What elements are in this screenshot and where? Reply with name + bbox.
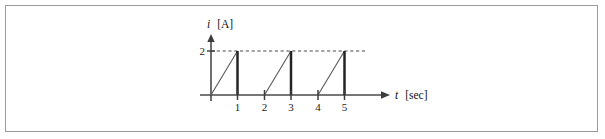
ramp-segment-2: [265, 51, 292, 95]
y-axis-unit: [A]: [217, 18, 233, 30]
x-tick-label-1: 1: [235, 101, 241, 113]
x-tick-label-2: 2: [262, 101, 268, 113]
y-axis-arrow-icon: [207, 34, 214, 42]
x-tick-label-3: 3: [288, 101, 294, 113]
y-tick-label-2: 2: [200, 45, 206, 57]
x-tick-label-4: 4: [315, 101, 321, 113]
x-tick-label-5: 5: [342, 101, 348, 113]
y-axis-title: i [A]: [207, 14, 233, 31]
x-axis-symbol: t: [395, 89, 399, 101]
x-axis-title: t [sec]: [395, 85, 428, 102]
x-axis-arrow-icon: [381, 91, 390, 98]
ramp-segment-1: [211, 51, 238, 95]
ramp-segment-3: [318, 51, 345, 95]
figure-root: 1 2 3 4 5 2 i [A] t [sec]: [0, 0, 605, 139]
y-axis-symbol: i: [207, 18, 210, 30]
sawtooth-waveform-plot: 1 2 3 4 5 2 i [A] t [sec]: [0, 0, 605, 139]
x-axis-unit: [sec]: [405, 89, 427, 101]
